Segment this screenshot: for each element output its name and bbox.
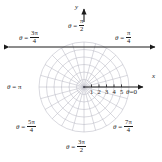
fraction: 7π 4 xyxy=(124,119,133,133)
polar-grid-figure: y x 1 2 3 4 5 θ=0 θ = π 4 θ = π 2 θ = 3π… xyxy=(0,0,162,162)
theta-symbol: θ xyxy=(7,83,10,91)
theta-symbol: θ xyxy=(66,143,69,151)
radial-tick-5: 5 xyxy=(118,89,126,96)
angle-label-theta-5pi-4: θ = 5π 4 xyxy=(16,119,36,133)
fraction: 3π 4 xyxy=(30,30,39,44)
denominator: 4 xyxy=(30,38,39,45)
angle-value: π xyxy=(18,83,22,91)
angle-label-theta-7pi-4: θ = 7π 4 xyxy=(113,119,133,133)
angle-value: 0 xyxy=(133,88,137,96)
angle-label-theta-pi-4: θ = π 4 xyxy=(115,30,132,44)
theta-symbol: θ xyxy=(19,34,22,42)
equals-sign: = xyxy=(71,143,75,151)
equals-sign: = xyxy=(24,34,28,42)
equals-sign: = xyxy=(73,22,77,30)
fraction: 5π 4 xyxy=(27,119,36,133)
theta-symbol: θ xyxy=(113,123,116,131)
theta-symbol: θ xyxy=(115,34,118,42)
x-axis-label: x xyxy=(152,73,155,80)
denominator: 4 xyxy=(126,38,131,45)
denominator: 4 xyxy=(27,127,36,134)
denominator: 4 xyxy=(124,127,133,134)
fraction: π 2 xyxy=(79,18,84,32)
fraction: π 4 xyxy=(126,30,131,44)
theta-symbol: θ xyxy=(68,22,71,30)
angle-label-theta-3pi-4: θ = 3π 4 xyxy=(19,30,39,44)
denominator: 2 xyxy=(77,147,86,154)
equals-sign: = xyxy=(21,123,25,131)
y-axis-label: y xyxy=(75,4,78,11)
theta-symbol: θ xyxy=(16,123,19,131)
fraction: 3π 2 xyxy=(77,139,86,153)
denominator: 2 xyxy=(79,26,84,33)
angle-label-theta-pi: θ = π xyxy=(7,84,21,91)
equals-sign: = xyxy=(120,34,124,42)
angle-label-theta-3pi-2: θ = 3π 2 xyxy=(66,139,86,153)
angle-label-theta-pi-2: θ = π 2 xyxy=(68,18,85,32)
equals-sign: = xyxy=(12,83,16,91)
pole-origin xyxy=(83,86,85,88)
angle-label-theta-0: θ=0 xyxy=(126,89,137,96)
equals-sign: = xyxy=(118,123,122,131)
